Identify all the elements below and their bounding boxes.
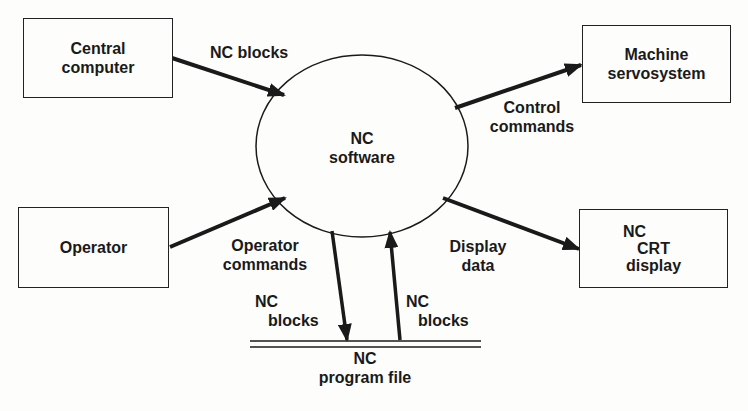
- nc-crt-display-label-1: NC: [623, 223, 646, 240]
- nc-program-file-label: NC program file: [300, 349, 430, 387]
- central-computer-label-2: computer: [62, 58, 135, 77]
- edge-label-operator-commands: Operator commands: [212, 236, 318, 274]
- edge-label-display-data-1: Display: [440, 237, 516, 256]
- arrow-central-to-software: [172, 58, 284, 95]
- nc-crt-display-box: NC CRT display: [579, 209, 728, 288]
- operator-box: Operator: [18, 207, 169, 288]
- edge-label-display-data-2: data: [440, 256, 516, 275]
- machine-servosystem-label-2: servosystem: [608, 64, 706, 83]
- nc-crt-display-label-2: CRT: [637, 240, 670, 257]
- arrow-software-to-file: [332, 231, 347, 340]
- edge-label-control-commands: Control commands: [482, 98, 582, 136]
- nc-software-label: NC software: [312, 129, 412, 167]
- edge-label-display-data: Display data: [440, 237, 516, 275]
- edge-label-nc-blocks-down-2: blocks: [268, 311, 319, 330]
- edge-label-control-commands-1: Control: [482, 98, 582, 117]
- central-computer-box: Central computer: [23, 18, 173, 98]
- edge-label-nc-blocks-down-1: NC: [255, 292, 319, 311]
- edge-label-nc-blocks-up-1: NC: [406, 292, 469, 311]
- edge-label-operator-commands-1: Operator: [212, 236, 318, 255]
- edge-label-nc-blocks-up: NC blocks: [406, 292, 469, 330]
- nc-program-file-label-1: NC: [300, 349, 430, 368]
- central-computer-label-1: Central: [70, 39, 125, 58]
- arrow-file-to-software: [390, 232, 400, 340]
- nc-program-file-label-2: program file: [300, 368, 430, 387]
- edge-label-nc-blocks-central: NC blocks: [210, 43, 288, 62]
- machine-servosystem-label-1: Machine: [624, 45, 688, 64]
- machine-servosystem-box: Machine servosystem: [582, 25, 731, 103]
- edge-label-operator-commands-2: commands: [212, 255, 318, 274]
- edge-label-control-commands-2: commands: [482, 117, 582, 136]
- nc-crt-display-label-3: display: [626, 257, 681, 274]
- nc-software-label-1: NC: [312, 129, 412, 148]
- edge-label-nc-blocks-down: NC blocks: [255, 292, 319, 330]
- nc-software-label-2: software: [312, 148, 412, 167]
- operator-label: Operator: [60, 238, 128, 257]
- edge-label-nc-blocks-up-2: blocks: [418, 311, 469, 330]
